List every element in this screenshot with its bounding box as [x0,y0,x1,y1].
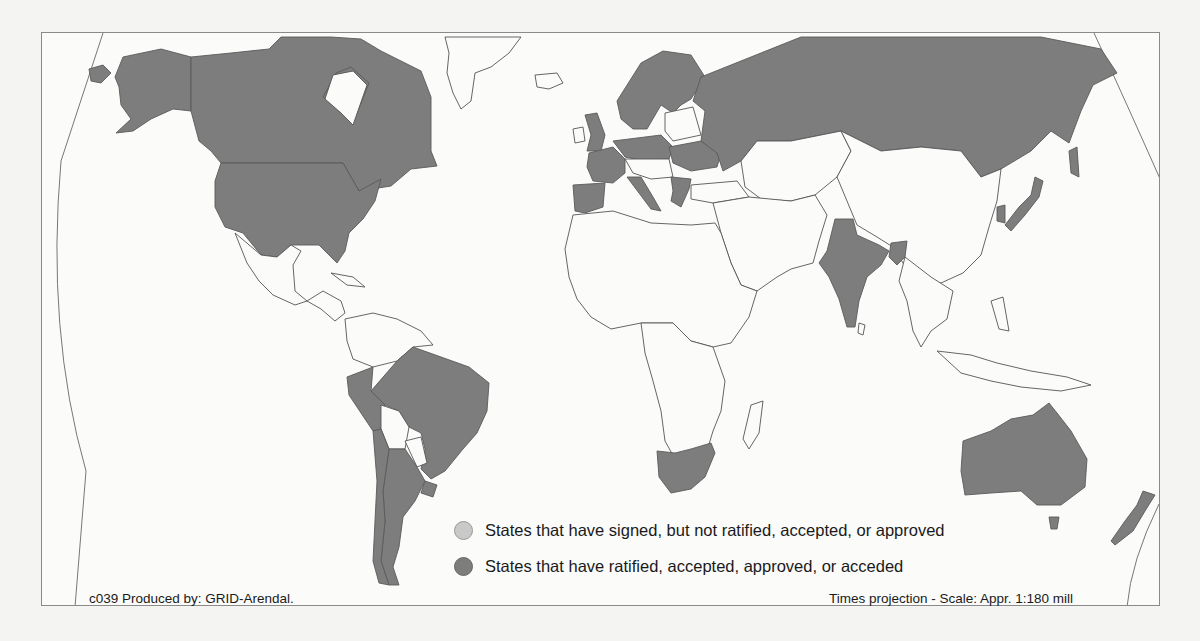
country-spain-portugal[interactable] [573,183,605,213]
legend-swatch-ratified-icon [454,557,473,576]
legend-item-ratified: States that have ratified, accepted, app… [454,548,945,584]
projection-scale-note: Times projection - Scale: Appr. 1:180 mi… [829,591,1073,606]
country-cuba[interactable] [331,273,365,287]
legend-label-signed: States that have signed, but not ratifie… [485,521,945,540]
legend-item-signed: States that have signed, but not ratifie… [454,512,945,548]
country-peru[interactable] [347,367,385,431]
country-south-korea[interactable] [997,205,1005,223]
country-france[interactable] [587,147,625,183]
country-iceland[interactable] [535,73,563,89]
country-ireland[interactable] [573,127,585,143]
country-south-africa[interactable] [657,443,715,493]
country-bulgaria-greece[interactable] [671,177,691,207]
legend-swatch-signed-icon [454,521,473,540]
region-indonesia-philippines[interactable] [937,297,1091,391]
country-madagascar[interactable] [743,401,763,449]
country-argentina[interactable] [381,449,425,585]
country-greenland[interactable] [445,37,521,109]
country-usa-alaska[interactable] [89,65,111,83]
country-sri-lanka[interactable] [858,323,865,335]
country-new-zealand[interactable] [1111,491,1155,545]
country-japan[interactable] [1005,177,1043,231]
country-australia-tasmania[interactable] [1049,517,1059,529]
region-central-america[interactable] [307,291,345,321]
country-italy[interactable] [627,177,661,211]
projection-edge-left [57,33,103,606]
country-uk[interactable] [585,113,605,151]
map-legend: States that have signed, but not ratifie… [454,512,945,584]
region-central-europe[interactable] [625,159,673,179]
country-usa-alaska-main[interactable] [115,49,191,133]
country-kazakhstan-central-asia[interactable] [741,131,851,201]
map-credit: c039 Produced by: GRID-Arendal. [89,591,294,606]
region-baltic-belarus[interactable] [665,107,701,141]
country-russia-sakhalin[interactable] [1069,147,1079,177]
country-australia[interactable] [961,403,1087,505]
legend-label-ratified: States that have ratified, accepted, app… [485,557,903,576]
